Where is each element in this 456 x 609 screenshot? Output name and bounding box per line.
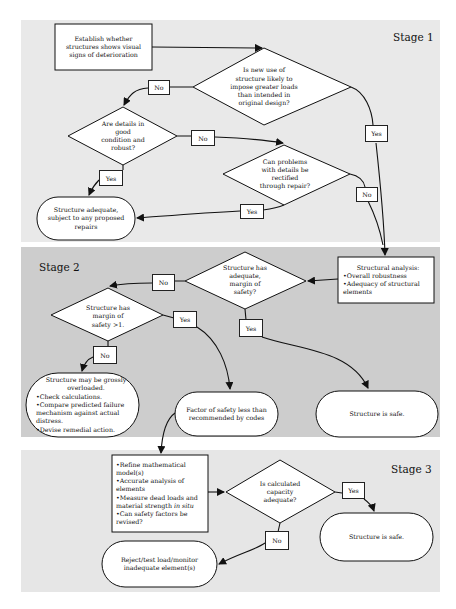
new-use-text: Is new use of structure likely to impose… bbox=[213, 65, 315, 109]
text-line: good bbox=[115, 128, 131, 136]
text-line: impose greater loads bbox=[230, 83, 297, 91]
edge-label-rectify-yes: Yes bbox=[240, 204, 264, 219]
text-line: through repair? bbox=[260, 182, 310, 190]
refine-text: •Refine mathematical model(s) •Accurate … bbox=[116, 456, 208, 531]
text-line: inadequate element(s) bbox=[124, 564, 196, 572]
rectify-text: Can problems with details be rectified t… bbox=[244, 156, 326, 192]
edge-label-details-no: No bbox=[191, 130, 215, 146]
text-line: •Devise remedial action. bbox=[36, 426, 115, 434]
text-line: elements bbox=[343, 288, 372, 296]
text-line: overloaded. bbox=[67, 384, 104, 392]
edge-label-margin-yes: Yes bbox=[239, 319, 263, 337]
text-line: repairs bbox=[75, 223, 98, 231]
text-line: Structure has bbox=[223, 264, 267, 272]
text-line: adequate? bbox=[264, 496, 297, 504]
text-line: signs of deterioration bbox=[69, 51, 138, 59]
text-line: Structure adequate, bbox=[54, 206, 118, 214]
text-line: Is new use of bbox=[243, 66, 285, 74]
text-fragment-italic: in situ bbox=[174, 502, 194, 509]
structural-analysis-text: Structural analysis: •Overall robustness… bbox=[343, 260, 433, 300]
capacity-text: Is calculated capacity adequate? bbox=[245, 478, 315, 506]
text-line: Structure has bbox=[86, 304, 130, 312]
text-line: with details be bbox=[261, 166, 308, 174]
text-line: •Can safety factors be bbox=[116, 510, 187, 518]
text-line: safety >1. bbox=[92, 321, 124, 329]
text-line: than intended in bbox=[238, 91, 291, 99]
text-line: recommended by codes bbox=[189, 414, 264, 422]
establish-text: Establish whether structures shows visua… bbox=[55, 24, 152, 70]
text-line: material strength in situ bbox=[116, 502, 194, 510]
text-line: margin of bbox=[230, 280, 261, 288]
text-line: Structure may be grossly bbox=[46, 376, 127, 384]
text-fragment: material strength bbox=[116, 502, 174, 509]
text-line: original design? bbox=[238, 99, 289, 107]
text-line: Are details in bbox=[102, 120, 145, 128]
text-line: margin of bbox=[93, 312, 124, 320]
text-line: elements bbox=[116, 485, 145, 493]
edge-label-details-yes: Yes bbox=[99, 170, 123, 186]
text-line: subject to any proposed bbox=[48, 214, 124, 222]
edge-label-new-use-no: No bbox=[148, 80, 170, 95]
factor-less-text: Factor of safety less than recommended b… bbox=[175, 392, 278, 436]
text-line: structure likely to bbox=[235, 75, 292, 83]
edge-label-rectify-no: No bbox=[356, 187, 378, 202]
text-line: revised? bbox=[116, 518, 143, 526]
text-line: model(s) bbox=[116, 469, 144, 477]
text-line: Reject/test load/monitor bbox=[121, 556, 198, 564]
text-line: •Check calculations. bbox=[36, 393, 102, 401]
text-line: •Refine mathematical bbox=[116, 461, 186, 469]
adequate-repairs-text: Structure adequate, subject to any propo… bbox=[37, 197, 135, 240]
edge-label-margin-no: No bbox=[152, 274, 175, 291]
edge-label-capacity-yes: Yes bbox=[342, 482, 365, 499]
text-line: rectified bbox=[272, 174, 299, 182]
safe-stage2-text: Structure is safe. bbox=[316, 391, 438, 437]
text-line: capacity bbox=[267, 488, 294, 496]
edge-label-gt1-no: No bbox=[93, 346, 117, 364]
text-line: structures shows visual bbox=[66, 43, 141, 51]
text-line: safety? bbox=[234, 288, 257, 296]
text-line: Establish whether bbox=[75, 35, 133, 43]
text-line: distress. bbox=[36, 417, 63, 425]
text-line: adequate, bbox=[229, 272, 261, 280]
text-line: Structural analysis: bbox=[357, 264, 420, 272]
edge-label-new-use-yes: Yes bbox=[365, 125, 388, 142]
reject-text: Reject/test load/monitor inadequate elem… bbox=[102, 541, 217, 587]
text-line: Factor of safety less than bbox=[186, 406, 266, 414]
text-line: Structure is safe. bbox=[349, 410, 404, 418]
text-line: condition and bbox=[101, 136, 145, 144]
text-line: mechanism against actual bbox=[36, 409, 119, 417]
edge-label-gt1-yes: Yes bbox=[173, 311, 197, 328]
safe-stage3-text: Structure is safe. bbox=[320, 513, 433, 561]
text-line: •Accurate analysis of bbox=[116, 477, 184, 485]
details-text: Are details in good condition and robust… bbox=[85, 118, 161, 154]
text-line: Is calculated bbox=[260, 480, 301, 488]
margin-gt1-text: Structure has margin of safety >1. bbox=[75, 303, 141, 330]
text-line: •Overall robustness bbox=[343, 272, 407, 280]
text-line: •Measure dead loads and bbox=[116, 494, 198, 502]
text-line: Structure is safe. bbox=[349, 533, 404, 541]
text-line: robust? bbox=[111, 144, 135, 152]
overloaded-text: Structure may be grossly overloaded. •Ch… bbox=[36, 374, 136, 436]
text-line: •Adequacy of structural bbox=[343, 280, 420, 288]
edge-label-capacity-no: No bbox=[265, 531, 289, 550]
text-line: •Compare predicted failure bbox=[36, 401, 124, 409]
text-line: Can problems bbox=[263, 158, 307, 166]
adequate-margin-text: Structure has adequate, margin of safety… bbox=[210, 262, 280, 298]
